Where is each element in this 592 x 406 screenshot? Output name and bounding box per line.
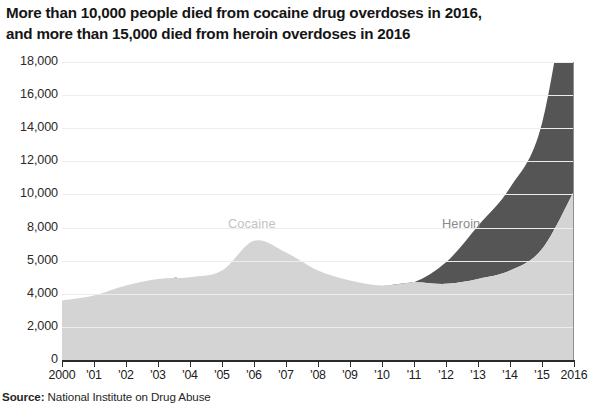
gridline bbox=[62, 161, 574, 162]
gridline bbox=[62, 327, 574, 328]
x-axis-tick bbox=[318, 360, 319, 367]
x-axis-tick bbox=[158, 360, 159, 367]
x-axis-tick bbox=[414, 360, 415, 367]
y-axis-label: 10,000 bbox=[0, 186, 58, 200]
x-axis-label: '11 bbox=[401, 368, 427, 382]
source-text: National Institute on Drug Abuse bbox=[44, 390, 210, 403]
y-axis-label: 14,000 bbox=[0, 120, 58, 134]
x-axis-tick bbox=[286, 360, 287, 367]
gridline bbox=[62, 294, 574, 295]
x-axis-tick bbox=[94, 360, 95, 367]
x-axis-label: '15 bbox=[529, 368, 555, 382]
x-axis-label: 2000 bbox=[42, 368, 82, 382]
series-label-heroin: Heroin bbox=[442, 216, 480, 231]
y-axis-label: 5,000 bbox=[0, 253, 58, 267]
gridline bbox=[62, 194, 574, 195]
x-axis-label: '09 bbox=[337, 368, 363, 382]
x-axis-tick bbox=[542, 360, 543, 367]
x-axis-tick bbox=[446, 360, 447, 367]
plot-area bbox=[62, 62, 574, 360]
x-axis-tick bbox=[574, 360, 575, 367]
y-axis-label: 4,000 bbox=[0, 286, 58, 300]
x-axis-tick bbox=[254, 360, 255, 367]
gridline bbox=[62, 95, 574, 96]
source-note: Source: National Institute on Drug Abuse bbox=[2, 390, 462, 403]
plot-right-border bbox=[573, 62, 574, 360]
x-axis-label: '01 bbox=[81, 368, 107, 382]
x-axis-label: '02 bbox=[113, 368, 139, 382]
x-axis-label: '05 bbox=[209, 368, 235, 382]
x-axis-label: '04 bbox=[177, 368, 203, 382]
x-axis-tick bbox=[478, 360, 479, 367]
x-axis-tick bbox=[382, 360, 383, 367]
x-axis-label: 2016 bbox=[554, 368, 592, 382]
x-axis-tick bbox=[222, 360, 223, 367]
x-axis-label: '07 bbox=[273, 368, 299, 382]
gridline bbox=[62, 261, 574, 262]
x-axis-tick bbox=[126, 360, 127, 367]
area-series-group bbox=[62, 62, 574, 360]
x-axis-label: '03 bbox=[145, 368, 171, 382]
x-axis-tick bbox=[350, 360, 351, 367]
x-axis-label: '08 bbox=[305, 368, 331, 382]
x-axis-label: '13 bbox=[465, 368, 491, 382]
x-axis-tick bbox=[190, 360, 191, 367]
gridline bbox=[62, 128, 574, 129]
series-label-cocaine: Cocaine bbox=[228, 216, 276, 231]
gridline bbox=[62, 62, 574, 63]
y-axis-label: 12,000 bbox=[0, 153, 58, 167]
y-axis-label: 8,000 bbox=[0, 220, 58, 234]
x-axis-label: '10 bbox=[369, 368, 395, 382]
y-axis-label: 0 bbox=[0, 352, 58, 366]
heroin-area-path bbox=[62, 62, 574, 300]
x-axis-label: '14 bbox=[497, 368, 523, 382]
gridline bbox=[62, 228, 574, 229]
y-axis-label: 18,000 bbox=[0, 54, 58, 68]
x-axis-label: '12 bbox=[433, 368, 459, 382]
x-axis-tick bbox=[62, 360, 63, 367]
x-axis-tick bbox=[510, 360, 511, 367]
y-axis-label: 2,000 bbox=[0, 319, 58, 333]
source-prefix: Source: bbox=[2, 390, 44, 403]
x-axis-label: '06 bbox=[241, 368, 267, 382]
y-axis-label: 16,000 bbox=[0, 87, 58, 101]
